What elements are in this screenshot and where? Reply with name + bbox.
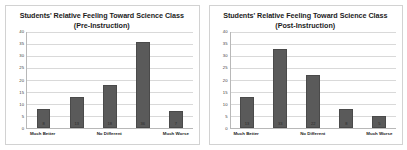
- y-tick-label: 25: [223, 66, 228, 70]
- bar[interactable]: 5: [372, 116, 386, 128]
- x-tick-label: [59, 129, 92, 141]
- bar-slot: 22: [297, 32, 330, 128]
- x-tick-label: [263, 129, 296, 141]
- bar-value-label: 18: [108, 122, 112, 128]
- dual-chart-figure: Students' Relative Feeling Toward Scienc…: [0, 0, 407, 150]
- bars-pre: 81318367: [27, 32, 193, 128]
- bar[interactable]: 22: [306, 75, 320, 128]
- bar-value-label: 5: [378, 122, 380, 128]
- bar[interactable]: 8: [339, 109, 353, 128]
- y-axis-pre: 0510152025303540: [11, 32, 26, 129]
- x-tick-label: No Different: [93, 129, 126, 141]
- bar[interactable]: 13: [70, 97, 84, 128]
- y-tick-label: 5: [225, 115, 227, 119]
- chart-subtitle-post: (Post-Instruction): [215, 20, 397, 32]
- bar-slot: 8: [330, 32, 363, 128]
- plot-area-post: 13332285: [230, 32, 397, 129]
- chart-title-pre: Students' Relative Feeling Toward Scienc…: [11, 10, 193, 20]
- y-tick-label: 30: [223, 54, 228, 58]
- bar-value-label: 22: [311, 122, 315, 128]
- x-axis-pre: Much BetterNo DifferentMuch Worse: [11, 129, 193, 141]
- bar-slot: 7: [159, 32, 192, 128]
- chart-panel-post: Students' Relative Feeling Toward Scienc…: [204, 0, 407, 150]
- y-axis-post: 0510152025303540: [215, 32, 230, 129]
- x-tick-label: No Different: [296, 129, 329, 141]
- bar-slot: 33: [264, 32, 297, 128]
- bar-value-label: 8: [42, 122, 44, 128]
- bar[interactable]: 18: [103, 85, 117, 128]
- bars-post: 13332285: [231, 32, 397, 128]
- bar[interactable]: 36: [136, 42, 150, 128]
- bar-slot: 18: [93, 32, 126, 128]
- bar-value-label: 7: [175, 122, 177, 128]
- y-tick-label: 10: [19, 103, 24, 107]
- chart-panel-pre: Students' Relative Feeling Toward Scienc…: [0, 0, 204, 150]
- chart-title-post: Students' Relative Feeling Toward Scienc…: [215, 10, 397, 20]
- bar-value-label: 13: [74, 122, 78, 128]
- bar-slot: 13: [231, 32, 264, 128]
- y-tick-label: 40: [223, 30, 228, 34]
- y-tick-label: 30: [19, 54, 24, 58]
- bar-value-label: 8: [345, 122, 347, 128]
- bar[interactable]: 7: [169, 111, 183, 128]
- y-tick-label: 35: [19, 42, 24, 46]
- bar-slot: 8: [27, 32, 60, 128]
- plot-wrap-post: 0510152025303540 13332285 Much BetterNo …: [215, 32, 397, 141]
- x-axis-post: Much BetterNo DifferentMuch Worse: [215, 129, 397, 141]
- bar-slot: 13: [60, 32, 93, 128]
- plot-wrap-pre: 0510152025303540 81318367 Much BetterNo …: [11, 32, 193, 141]
- bar[interactable]: 8: [37, 109, 51, 128]
- x-tick-label: Much Worse: [159, 129, 192, 141]
- y-tick-label: 40: [19, 30, 24, 34]
- y-tick-label: 20: [19, 78, 24, 82]
- bar-value-label: 36: [141, 122, 145, 128]
- x-tick-label: Much Better: [230, 129, 263, 141]
- plot-area-pre: 81318367: [26, 32, 193, 129]
- x-tick-label: Much Better: [26, 129, 59, 141]
- bar-value-label: 33: [278, 122, 282, 128]
- chart-subtitle-pre: (Pre-Instruction): [11, 20, 193, 32]
- x-tick-label: Much Worse: [363, 129, 396, 141]
- x-tick-label: [126, 129, 159, 141]
- bar-slot: 5: [363, 32, 396, 128]
- y-tick-label: 15: [223, 91, 228, 95]
- bar[interactable]: 13: [240, 97, 254, 128]
- y-tick-label: 15: [19, 91, 24, 95]
- x-tick-label: [329, 129, 362, 141]
- bar[interactable]: 33: [273, 49, 287, 128]
- y-tick-label: 5: [22, 115, 24, 119]
- bar-slot: 36: [126, 32, 159, 128]
- bar-value-label: 13: [245, 122, 249, 128]
- y-tick-label: 0: [225, 127, 227, 131]
- y-tick-label: 35: [223, 42, 228, 46]
- y-tick-label: 10: [223, 103, 228, 107]
- y-tick-label: 0: [22, 127, 24, 131]
- y-tick-label: 25: [19, 66, 24, 70]
- y-tick-label: 20: [223, 78, 228, 82]
